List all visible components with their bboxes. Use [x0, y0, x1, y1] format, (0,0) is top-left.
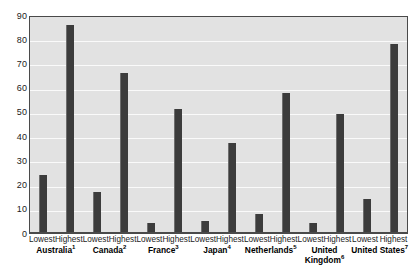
bar-group-france	[138, 17, 192, 233]
bar-netherlands-lowest[interactable]	[255, 214, 263, 233]
x-group-australia: LowestHighestAustralia1	[29, 235, 83, 272]
x-country-label-line: United States7	[351, 246, 408, 256]
x-axis: LowestHighestAustralia1LowestHighestCana…	[29, 235, 408, 272]
x-subtick-highest: Highest	[55, 235, 83, 245]
bar-australia-lowest[interactable]	[39, 175, 47, 233]
footnote-marker: 3	[175, 244, 178, 250]
x-country-label: Japan4	[190, 246, 244, 256]
bar-group-canada	[84, 17, 138, 233]
x-group-canada: LowestHighestCanada2	[83, 235, 137, 272]
footnote-marker: 1	[72, 244, 75, 250]
y-tick-label: 90	[2, 12, 27, 21]
footnote-marker: 5	[293, 244, 296, 250]
x-subtick-lowest: Lowest	[83, 235, 109, 245]
bar-united-states-lowest[interactable]	[363, 199, 371, 233]
x-subtick-lowest: Lowest	[136, 235, 162, 245]
bar-group-netherlands	[245, 17, 299, 233]
y-axis: 9080706050403020100	[0, 8, 27, 240]
bar-france-highest[interactable]	[174, 109, 182, 233]
x-group-netherlands: LowestHighestNetherlands5	[244, 235, 298, 272]
subtick-row: LowestHighest	[190, 235, 244, 245]
bar-group-united-kingdom	[299, 17, 353, 233]
bar-group-australia	[30, 17, 84, 233]
y-tick-label: 80	[2, 36, 27, 45]
bar-united-states-highest[interactable]	[390, 44, 398, 233]
x-group-japan: LowestHighestJapan4	[190, 235, 244, 272]
y-tick-label: 60	[2, 84, 27, 93]
x-country-label-line: Japan4	[190, 246, 244, 256]
x-country-label-line: Netherlands5	[244, 246, 298, 256]
x-country-label-line: Australia1	[29, 246, 83, 256]
x-country-label: Canada2	[83, 246, 137, 256]
bar-group-japan	[192, 17, 246, 233]
x-subtick-highest: Highest	[380, 235, 408, 245]
x-country-label: United States7	[351, 246, 408, 256]
y-tick-label: 70	[2, 60, 27, 69]
y-tick-label: 30	[2, 157, 27, 166]
subtick-row: LowestHighest	[351, 235, 408, 245]
x-subtick-lowest: Lowest	[190, 235, 216, 245]
bars-layer	[30, 17, 407, 233]
bar-netherlands-highest[interactable]	[282, 93, 290, 233]
x-subtick-lowest: Lowest	[352, 235, 378, 245]
footnote-marker: 6	[341, 254, 344, 260]
x-group-france: LowestHighestFrance3	[136, 235, 190, 272]
footnote-marker: 2	[123, 244, 126, 250]
x-group-united-kingdom: LowestHighestUnitedKingdom6	[298, 235, 352, 272]
y-tick-label: 50	[2, 108, 27, 117]
x-country-label-line: Kingdom6	[298, 256, 352, 266]
bar-japan-highest[interactable]	[228, 143, 236, 233]
x-country-label: Netherlands5	[244, 246, 298, 256]
x-country-label: France3	[136, 246, 190, 256]
y-tick-label: 10	[2, 205, 27, 214]
subtick-row: LowestHighest	[298, 235, 352, 245]
bar-australia-highest[interactable]	[66, 25, 74, 233]
plot-area	[29, 16, 408, 234]
y-tick-label: 40	[2, 133, 27, 142]
bar-canada-highest[interactable]	[120, 73, 128, 233]
x-country-label-line: Canada2	[83, 246, 137, 256]
bar-united-kingdom-highest[interactable]	[336, 114, 344, 233]
x-group-united-states: LowestHighestUnited States7	[351, 235, 408, 272]
subtick-row: LowestHighest	[83, 235, 137, 245]
y-tick-label: 0	[2, 230, 27, 239]
x-subtick-lowest: Lowest	[244, 235, 270, 245]
x-country-label: UnitedKingdom6	[298, 246, 352, 265]
footnote-marker: 7	[405, 244, 408, 250]
subtick-row: LowestHighest	[244, 235, 298, 245]
subtick-row: LowestHighest	[136, 235, 190, 245]
bar-canada-lowest[interactable]	[93, 192, 101, 233]
bar-chart-figure: 9080706050403020100 LowestHighestAustral…	[0, 0, 412, 272]
x-country-label-line: France3	[136, 246, 190, 256]
footnote-marker: 4	[227, 244, 230, 250]
x-subtick-lowest: Lowest	[29, 235, 55, 245]
x-country-label: Australia1	[29, 246, 83, 256]
x-subtick-highest: Highest	[324, 235, 352, 245]
x-subtick-lowest: Lowest	[298, 235, 324, 245]
bar-group-united-states	[353, 17, 407, 233]
y-tick-label: 20	[2, 181, 27, 190]
baseline-rule	[30, 232, 407, 233]
